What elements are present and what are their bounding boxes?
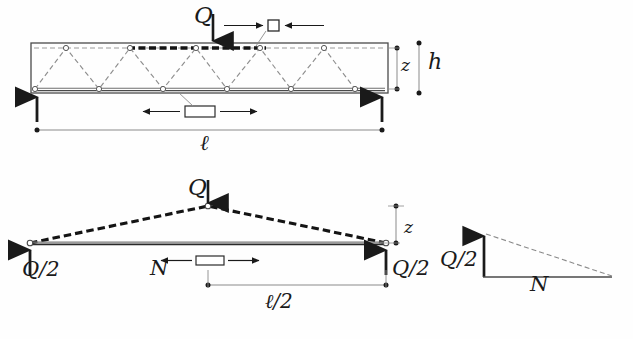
depth-z-dimension (389, 48, 399, 89)
tension-leader-line (178, 92, 193, 106)
axial-force-rect (196, 256, 224, 265)
label-span-ell: ℓ (200, 133, 209, 154)
half-span-dimension (208, 270, 386, 288)
node-apex (205, 203, 211, 209)
label-depth-z-top: z (401, 57, 410, 74)
structural-figure: Q z h ℓ Q z Q/2 Q/2 N ℓ/2 Q/2 N (0, 0, 633, 339)
lever-arm-z-dimension (380, 206, 404, 243)
compression-element-square (268, 20, 279, 31)
label-lever-arm-z: z (404, 219, 413, 236)
label-reaction-right: Q/2 (392, 258, 430, 279)
compression-leader-line (256, 31, 266, 46)
label-load-Q-top: Q (194, 4, 213, 27)
label-reaction-left: Q/2 (22, 259, 60, 280)
force-triangle-hypotenuse (486, 234, 612, 276)
label-load-Q-bottom: Q (188, 176, 207, 199)
compression-marker-group (224, 20, 324, 46)
label-half-span: ℓ/2 (265, 291, 293, 311)
label-triangle-base: N (530, 274, 548, 295)
inclined-struts-dashed (30, 206, 386, 243)
label-triangle-vertical: Q/2 (440, 249, 478, 270)
node-left-support (27, 240, 33, 246)
beam-outline (31, 43, 388, 93)
bottom-freebody-diagram (27, 180, 404, 288)
label-axial-force-N: N (150, 258, 168, 279)
force-triangle-diagram (483, 234, 612, 277)
label-depth-h: h (428, 51, 442, 73)
tension-element-rect (185, 106, 215, 117)
top-truss-diagram (31, 14, 419, 130)
tension-marker-group (143, 92, 257, 117)
web-diagonals (35, 48, 355, 89)
axial-force-marker-group (161, 256, 259, 265)
